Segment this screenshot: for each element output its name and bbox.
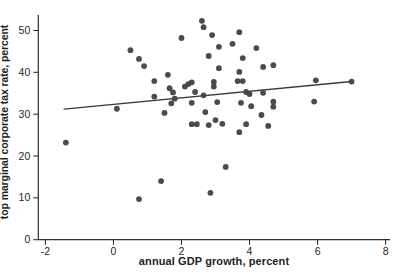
scatter-plot: 01020304050-202468: [0, 0, 398, 277]
data-point: [243, 121, 249, 127]
data-point: [189, 100, 195, 106]
data-point: [214, 99, 220, 105]
data-point: [202, 109, 208, 115]
data-point: [136, 196, 142, 202]
data-point: [189, 121, 195, 127]
y-tick-label: 30: [19, 108, 31, 120]
data-point: [179, 35, 185, 41]
data-point: [238, 100, 244, 106]
data-point: [349, 79, 355, 85]
data-point: [151, 94, 157, 100]
data-point: [247, 91, 253, 97]
data-point: [165, 72, 171, 78]
data-point: [216, 44, 222, 50]
data-point: [151, 78, 157, 84]
data-point: [260, 90, 266, 96]
data-point: [172, 96, 178, 102]
y-tick-label: 50: [19, 24, 31, 36]
y-tick-label: 20: [19, 150, 31, 162]
data-point: [158, 178, 164, 184]
data-point: [248, 103, 254, 109]
data-point: [206, 122, 212, 128]
data-point: [162, 110, 168, 116]
data-point: [199, 18, 205, 24]
data-point: [253, 45, 259, 51]
data-point: [240, 78, 246, 84]
data-point: [230, 41, 236, 47]
y-tick-label: 10: [19, 191, 31, 203]
data-point: [270, 104, 276, 110]
axes: [38, 15, 390, 240]
data-points: [63, 18, 355, 202]
data-point: [201, 92, 207, 98]
data-point: [141, 63, 147, 69]
data-point: [311, 99, 317, 105]
data-point: [211, 84, 217, 90]
data-point: [189, 79, 195, 85]
data-point: [260, 64, 266, 70]
y-tick-label: 40: [19, 66, 31, 78]
data-point: [206, 53, 212, 59]
data-point: [240, 55, 246, 61]
data-point: [236, 129, 242, 135]
data-point: [213, 117, 219, 123]
data-point: [216, 65, 222, 71]
data-point: [313, 77, 319, 83]
data-point: [265, 123, 271, 129]
data-point: [194, 121, 200, 127]
data-point: [236, 29, 242, 35]
x-axis-title: annual GDP growth, percent: [38, 255, 390, 267]
data-point: [201, 24, 207, 30]
data-point: [270, 99, 276, 105]
data-point: [270, 62, 276, 68]
y-axis-title: top marginal corporate tax rate, percent: [0, 25, 10, 219]
data-point: [136, 56, 142, 62]
data-point: [63, 140, 69, 146]
data-point: [219, 121, 225, 127]
data-point: [235, 78, 241, 84]
data-point: [209, 32, 215, 38]
y-ticks: 01020304050: [19, 24, 39, 245]
data-point: [170, 90, 176, 96]
data-point: [236, 69, 242, 75]
data-point: [114, 106, 120, 112]
data-point: [192, 89, 198, 95]
data-point: [168, 100, 174, 106]
data-point: [128, 47, 134, 53]
y-tick-label: 0: [24, 233, 30, 245]
trend-line: [64, 82, 351, 110]
scatter-figure: 01020304050-202468 annual GDP growth, pe…: [0, 0, 398, 277]
data-point: [208, 190, 214, 196]
data-point: [223, 164, 229, 170]
data-point: [259, 112, 265, 118]
